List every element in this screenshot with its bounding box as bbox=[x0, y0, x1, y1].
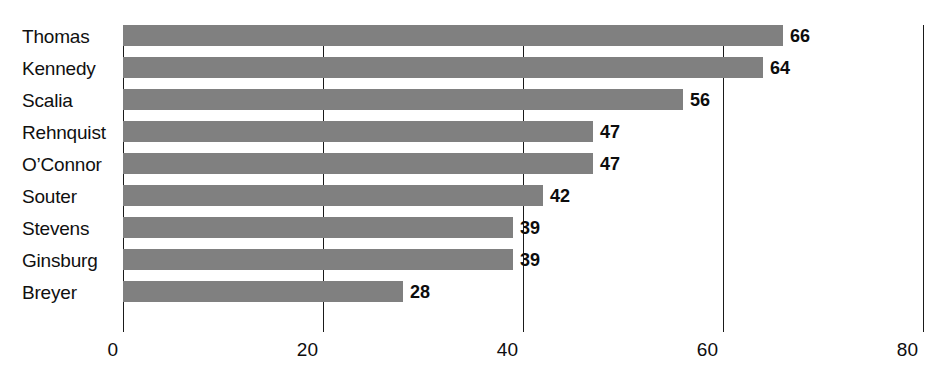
x-tick-label: 40 bbox=[497, 339, 523, 361]
x-tick-label: 0 bbox=[107, 339, 123, 361]
x-tick-label: 20 bbox=[297, 339, 323, 361]
plot-area: Thomas66Kennedy64Scalia56Rehnquist47O’Co… bbox=[0, 0, 926, 386]
x-tick-label: 80 bbox=[897, 339, 923, 361]
bar-chart: Thomas66Kennedy64Scalia56Rehnquist47O’Co… bbox=[0, 0, 926, 386]
x-axis: 020406080 bbox=[0, 0, 926, 386]
x-tick-label: 60 bbox=[697, 339, 723, 361]
